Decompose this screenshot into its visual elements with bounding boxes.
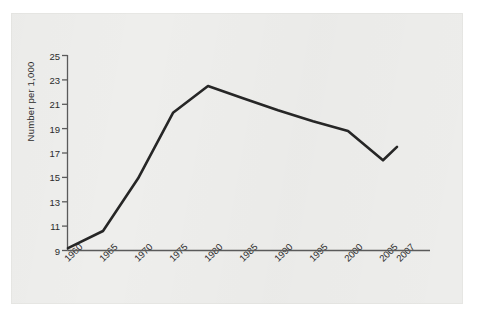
data-line-series [68,86,397,248]
scanned-figure: Number per 1,000 25 23 21 19 17 15 13 11… [0,0,478,316]
chart-canvas [0,0,478,316]
y-axis-ticks [62,56,68,251]
